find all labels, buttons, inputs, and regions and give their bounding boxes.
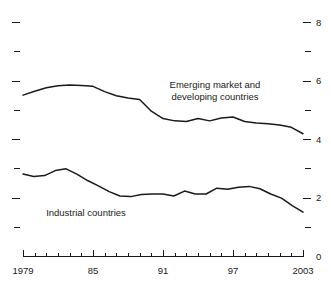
x-axis-tick-label: 2003 [292,265,313,276]
x-axis-tick-label: 85 [88,265,99,276]
right-axis-ticks [303,23,311,228]
line-chart: 02468 19798591972003 Emerging market and… [0,0,331,297]
right-axis-labels: 02468 [316,17,321,262]
x-axis-ticks [24,250,304,257]
emerging-markets-label: Emerging market anddeveloping countries [170,79,261,102]
y-axis-tick-label: 8 [316,17,321,28]
series-annotations: Emerging market anddeveloping countriesI… [46,79,260,218]
x-axis-tick-label: 1979 [12,265,33,276]
industrial-countries-label: Industrial countries [46,207,126,218]
x-axis-tick-label: 91 [158,265,169,276]
series-line-emerging-markets [23,85,303,134]
y-axis-tick-label: 0 [316,251,321,262]
series-line-industrial-countries [23,169,303,212]
left-axis-ticks [12,23,20,228]
annotation-line: Emerging market and [170,79,261,90]
chart-container: 02468 19798591972003 Emerging market and… [0,0,331,297]
annotation-line: Industrial countries [46,207,126,218]
y-axis-tick-label: 6 [316,75,321,86]
y-axis-tick-label: 2 [316,192,321,203]
annotation-line: developing countries [171,91,258,102]
y-axis-tick-label: 4 [316,134,321,145]
x-axis-labels: 19798591972003 [12,265,313,276]
x-axis-tick-label: 97 [228,265,239,276]
